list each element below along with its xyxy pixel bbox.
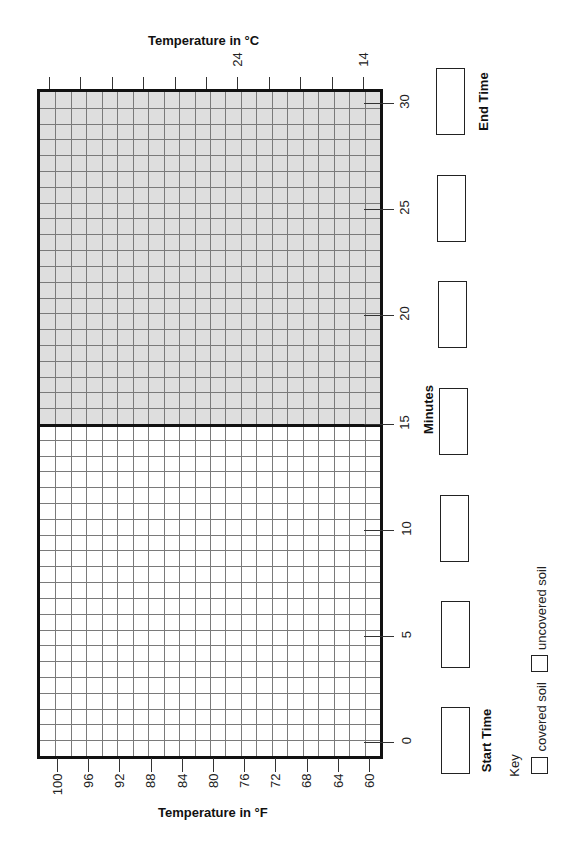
grid-line-horizontal <box>40 139 380 140</box>
grid-line-horizontal <box>40 345 380 346</box>
grid-line-horizontal <box>40 171 380 172</box>
fahrenheit-tick <box>213 758 214 772</box>
fahrenheit-axis-title: Temperature in °F <box>158 805 268 820</box>
fahrenheit-tick <box>151 758 152 772</box>
grid-line-horizontal <box>40 550 380 551</box>
minute-tick <box>364 315 394 316</box>
minute-tick <box>364 424 394 425</box>
fahrenheit-tick-label: 100 <box>50 774 65 802</box>
time-entry-box-25[interactable] <box>437 175 466 242</box>
grid-line-horizontal <box>40 266 380 267</box>
fahrenheit-tick-label: 96 <box>81 774 96 802</box>
grid-line-horizontal <box>40 503 380 504</box>
grid-line-horizontal <box>40 566 380 567</box>
minute-tick <box>364 209 394 210</box>
legend-title: Key <box>507 751 522 781</box>
grid-line-horizontal <box>40 392 380 393</box>
grid-line-horizontal <box>40 456 380 457</box>
legend-swatch-uncovered-soil[interactable] <box>531 655 548 672</box>
grid-line-horizontal <box>40 709 380 710</box>
minute-tick-label-10: 10 <box>399 519 414 539</box>
minute-tick <box>364 636 394 637</box>
minute-tick-label-25: 25 <box>397 198 412 218</box>
legend-swatch-covered-soil[interactable] <box>531 757 548 774</box>
fahrenheit-tick-label: 76 <box>237 774 252 802</box>
celsius-tick-label-14: 14 <box>356 51 371 69</box>
grid-line-horizontal <box>40 361 380 362</box>
minute-tick-label-20: 20 <box>397 304 412 324</box>
fahrenheit-tick <box>182 758 183 772</box>
grid-line-horizontal <box>40 519 380 520</box>
grid-line-horizontal <box>40 535 380 536</box>
fahrenheit-tick <box>88 758 89 772</box>
grid-line-horizontal <box>40 108 380 109</box>
grid-line-horizontal <box>40 724 380 725</box>
minute-tick <box>364 103 394 104</box>
minute-tick-label-0: 0 <box>399 731 414 751</box>
grid-line-horizontal <box>40 408 380 409</box>
minute-tick <box>364 742 394 743</box>
grid-line-horizontal <box>40 598 380 599</box>
grid-line-horizontal <box>40 614 380 615</box>
grid-line-horizontal <box>40 377 380 378</box>
time-entry-box-10[interactable] <box>440 495 469 562</box>
graph-grid[interactable] <box>37 89 383 759</box>
grid-line-horizontal <box>40 582 380 583</box>
grid-line-horizontal <box>40 234 380 235</box>
fifteen-minute-divider <box>37 424 383 427</box>
time-entry-box-20[interactable] <box>438 281 467 348</box>
grid-line-horizontal <box>40 329 380 330</box>
grid-line-horizontal <box>40 313 380 314</box>
fahrenheit-tick-label: 60 <box>362 774 377 802</box>
grid-line-horizontal <box>40 693 380 694</box>
grid-line-horizontal <box>40 630 380 631</box>
minute-tick-label-5: 5 <box>399 625 414 645</box>
minute-tick-label-15: 15 <box>397 413 412 433</box>
grid-line-horizontal <box>40 645 380 646</box>
celsius-tick-label-24: 24 <box>230 51 245 69</box>
grid-line-horizontal <box>40 250 380 251</box>
time-entry-box-5[interactable] <box>441 601 470 668</box>
start-time-label: Start Time <box>479 701 494 781</box>
time-entry-box-30[interactable] <box>436 68 465 135</box>
legend-label-uncovered-soil: uncovered soil <box>534 555 549 650</box>
fahrenheit-tick-label: 64 <box>331 774 346 802</box>
fahrenheit-tick <box>275 758 276 772</box>
time-entry-box-0[interactable] <box>441 707 470 774</box>
fahrenheit-tick <box>57 758 58 772</box>
fahrenheit-tick <box>307 758 308 772</box>
grid-line-horizontal <box>40 218 380 219</box>
fahrenheit-tick <box>244 758 245 772</box>
minute-tick-label-30: 30 <box>397 92 412 112</box>
legend-label-covered-soil: covered soil <box>534 672 549 752</box>
grid-line-horizontal <box>40 440 380 441</box>
grid-line-horizontal <box>40 677 380 678</box>
fahrenheit-tick-label: 92 <box>112 774 127 802</box>
grid-line-horizontal <box>40 187 380 188</box>
fahrenheit-tick-label: 80 <box>206 774 221 802</box>
grid-line-horizontal <box>40 471 380 472</box>
grid-line-horizontal <box>40 282 380 283</box>
fahrenheit-tick-label: 72 <box>268 774 283 802</box>
grid-line-horizontal <box>40 155 380 156</box>
time-entry-box-15[interactable] <box>439 388 468 455</box>
minute-tick <box>364 530 394 531</box>
grid-line-horizontal <box>40 487 380 488</box>
grid-line-horizontal <box>40 661 380 662</box>
celsius-axis-title: Temperature in °C <box>148 33 259 48</box>
fahrenheit-tick-label: 84 <box>175 774 190 802</box>
grid-line-horizontal <box>40 740 380 741</box>
grid-line-horizontal <box>40 298 380 299</box>
grid-line-horizontal <box>40 124 380 125</box>
fahrenheit-tick-label: 68 <box>299 774 314 802</box>
fahrenheit-tick <box>338 758 339 772</box>
fahrenheit-tick <box>369 758 370 772</box>
minutes-axis-title: Minutes <box>421 380 436 440</box>
fahrenheit-tick <box>119 758 120 772</box>
end-time-label: End Time <box>476 67 491 137</box>
grid-line-horizontal <box>40 203 380 204</box>
fahrenheit-tick-label: 88 <box>143 774 158 802</box>
